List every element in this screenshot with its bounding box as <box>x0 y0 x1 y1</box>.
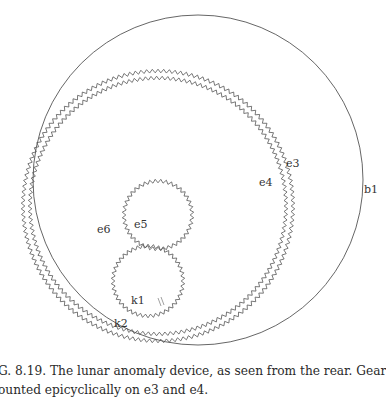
caption-line-2: ounted epicyclically on e3 and e4. <box>0 381 386 398</box>
gear-b1-outline <box>33 15 363 345</box>
label-k2: k2 <box>114 318 128 329</box>
gear-e5 <box>122 179 193 250</box>
label-e4: e4 <box>259 177 273 188</box>
figure-caption: G. 8.19. The lunar anomaly device, as se… <box>0 362 386 398</box>
label-b1: b1 <box>364 184 378 195</box>
gear-e4-ring <box>28 76 288 336</box>
gear-e3-ring <box>21 69 295 343</box>
label-k1: k1 <box>131 295 145 306</box>
gear-k1 <box>111 244 184 318</box>
label-e5: e5 <box>134 219 148 230</box>
caption-line-1: G. 8.19. The lunar anomaly device, as se… <box>0 362 386 381</box>
gear-diagram: b1 e3 e4 e5 e6 k1 k2 <box>0 0 386 350</box>
label-e3: e3 <box>286 158 300 169</box>
gear-diagram-svg <box>0 0 386 350</box>
label-e6: e6 <box>97 224 111 235</box>
pin-mark <box>158 297 164 306</box>
